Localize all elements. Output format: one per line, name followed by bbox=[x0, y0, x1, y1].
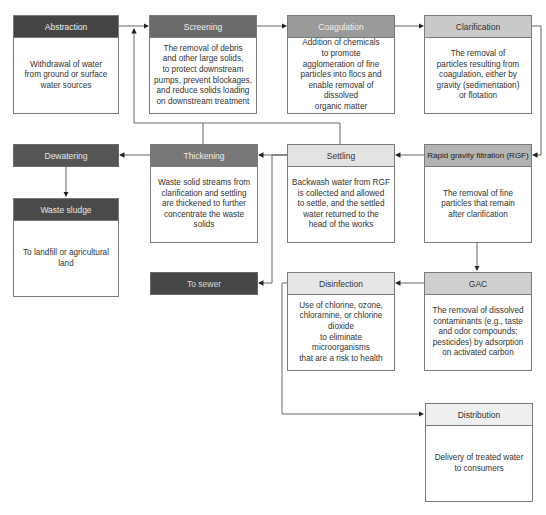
node-distribution: Distribution Delivery of treated water t… bbox=[425, 403, 533, 502]
node-description: Addition of chemicals to promote agglome… bbox=[288, 38, 394, 113]
node-thickening: Thickening Waste solid streams from clar… bbox=[150, 144, 258, 243]
node-rapid-gravity-filtration: Rapid gravity filtration (RGF) The remov… bbox=[424, 144, 532, 243]
node-description: To landfill or agricultural land bbox=[14, 221, 118, 296]
node-disinfection: Disinfection Use of chlorine, ozone, chl… bbox=[287, 272, 395, 371]
node-description: Use of chlorine, ozone, chloramine, or c… bbox=[288, 295, 394, 370]
node-title: Screening bbox=[150, 16, 256, 38]
node-dewatering: Dewatering bbox=[13, 144, 119, 167]
node-title: Abstraction bbox=[14, 16, 118, 38]
node-gac: GAC The removal of dissolved contaminant… bbox=[424, 272, 532, 371]
node-description: Backwash water from RGF is collected and… bbox=[288, 167, 394, 242]
node-description: The removal of particles resulting from … bbox=[425, 38, 531, 113]
node-title: Coagulation bbox=[288, 16, 394, 38]
node-to-sewer: To sewer bbox=[150, 272, 258, 295]
node-description: The removal of debris and other large so… bbox=[150, 38, 256, 113]
node-title: Settling bbox=[288, 145, 394, 167]
node-description: Delivery of treated water to consumers bbox=[426, 426, 532, 501]
node-description: The removal of fine particles that remai… bbox=[425, 167, 531, 242]
node-title: Rapid gravity filtration (RGF) bbox=[425, 145, 531, 167]
node-screening: Screening The removal of debris and othe… bbox=[149, 15, 257, 114]
node-settling: Settling Backwash water from RGF is coll… bbox=[287, 144, 395, 243]
node-title: Thickening bbox=[151, 145, 257, 167]
node-title: Clarification bbox=[425, 16, 531, 38]
node-title: Distribution bbox=[426, 404, 532, 426]
node-coagulation: Coagulation Addition of chemicals to pro… bbox=[287, 15, 395, 114]
node-description: Withdrawal of water from ground or surfa… bbox=[14, 38, 118, 113]
node-abstraction: Abstraction Withdrawal of water from gro… bbox=[13, 15, 119, 114]
node-waste-sludge: Waste sludge To landfill or agricultural… bbox=[13, 198, 119, 297]
node-clarification: Clarification The removal of particles r… bbox=[424, 15, 532, 114]
node-description: Waste solid streams from clarification a… bbox=[151, 167, 257, 242]
node-description: The removal of dissolved contaminants (e… bbox=[425, 295, 531, 370]
node-title: Waste sludge bbox=[14, 199, 118, 221]
node-title: GAC bbox=[425, 273, 531, 295]
node-title: Disinfection bbox=[288, 273, 394, 295]
